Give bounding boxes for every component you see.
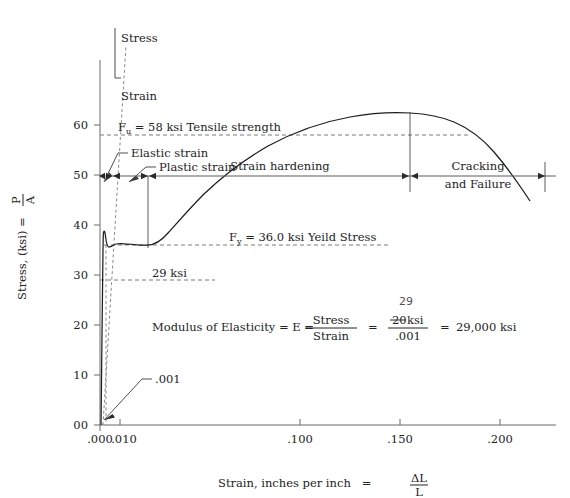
fy-symbol: F xyxy=(229,230,237,244)
y-axis-tick-labels: 00 10 20 30 40 50 60 xyxy=(73,118,88,432)
cracking-label-line2: and Failure xyxy=(445,177,512,191)
plastic-strain-label: Plastic strain xyxy=(159,160,236,174)
yield-stress-label: Fy = 36.0 ksi Yeild Stress xyxy=(229,230,376,246)
y-axis-title-text: Stress, (ksi) = xyxy=(15,217,29,300)
formula-frac2-denominator: .001 xyxy=(395,329,421,343)
x-axis-caption-text: Strain, inches per inch = xyxy=(218,476,371,490)
y-axis-ticks xyxy=(94,125,100,425)
arrow-cracking-right xyxy=(538,173,545,179)
point-001-leader xyxy=(104,379,152,420)
29ksi-label: 29 ksi xyxy=(152,266,187,280)
arrow-plastic-left xyxy=(113,173,120,179)
x-tick-label-150: .150 xyxy=(387,432,413,446)
y-tick-label-50: 50 xyxy=(73,168,88,182)
strain-label: Strain xyxy=(121,89,158,103)
arrow-cracking-left xyxy=(411,173,418,179)
cracking-label-line1: Cracking xyxy=(451,159,505,173)
x-axis-caption-numerator: ΔL xyxy=(411,471,427,485)
x-tick-label-200: .200 xyxy=(487,432,513,446)
fu-text: = 58 ksi Tensile strength xyxy=(135,120,282,134)
arrow-hardening-right xyxy=(402,173,409,179)
x-tick-label-000: .000 xyxy=(87,432,113,446)
formula-frac2-numerator-unit: ksi xyxy=(407,313,424,327)
svg-text:Fu = 58 ksi Tensile strength: Fu = 58 ksi Tensile strength xyxy=(118,120,282,136)
x-axis-caption-denominator: L xyxy=(415,485,423,498)
y-tick-label-10: 10 xyxy=(73,368,88,382)
y-tick-label-40: 40 xyxy=(73,218,88,232)
y-axis-title: Stress, (ksi) = P A xyxy=(9,194,37,300)
x-tick-label-100: .100 xyxy=(287,432,313,446)
handwritten-29-correction: 29 xyxy=(399,295,413,308)
y-tick-label-0: 00 xyxy=(73,418,88,432)
y-tick-label-30: 30 xyxy=(73,268,88,282)
y-axis-title-numerator: P xyxy=(9,196,23,204)
formula-equals-1: = xyxy=(368,320,378,334)
figure-canvas: 00 10 20 30 40 50 60 .000 .010 .100 .150… xyxy=(0,0,570,498)
fy-text: = 36.0 ksi Yeild Stress xyxy=(245,230,376,244)
y-axis-title-denominator: A xyxy=(23,195,37,205)
x-tick-label-010: .010 xyxy=(111,432,137,446)
stress-strain-figure: 00 10 20 30 40 50 60 .000 .010 .100 .150… xyxy=(0,0,570,498)
formula-frac1-numerator: Stress xyxy=(313,313,350,327)
x-axis-caption: Strain, inches per inch = ΔL L xyxy=(218,471,428,498)
formula-lead: Modulus of Elasticity = E = xyxy=(152,320,314,334)
formula-frac1-denominator: Strain xyxy=(313,329,350,343)
fu-symbol: F xyxy=(118,120,126,134)
y-tick-label-20: 20 xyxy=(73,318,88,332)
formula-result: 29,000 ksi xyxy=(456,320,517,334)
point-001-label: .001 xyxy=(155,372,181,386)
y-tick-label-60: 60 xyxy=(73,118,88,132)
svg-text:Fy = 36.0 ksi Yeild Stress: Fy = 36.0 ksi Yeild Stress xyxy=(229,230,376,246)
arrow-hardening-left xyxy=(149,173,156,179)
x-axis-tick-labels: .000 .010 .100 .150 .200 xyxy=(87,432,513,446)
elastic-strain-label: Elastic strain xyxy=(131,146,209,160)
strain-hardening-label: Strain hardening xyxy=(230,159,330,173)
formula-equals-2: = xyxy=(440,320,450,334)
tensile-strength-label: Fu = 58 ksi Tensile strength xyxy=(118,120,282,136)
stress-label: Stress xyxy=(121,31,158,45)
arrow-plastic-right xyxy=(141,173,148,179)
modulus-formula: Modulus of Elasticity = E = Stress Strai… xyxy=(152,295,517,343)
